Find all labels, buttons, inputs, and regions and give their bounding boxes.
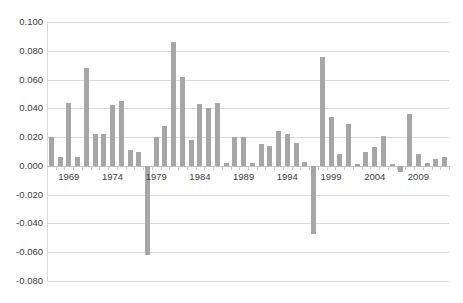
y-axis-tick-label: -0.020 [16,190,43,200]
bar [285,134,290,166]
x-axis-tick [449,166,450,170]
x-axis-tick [440,166,441,170]
x-axis-tick [82,166,83,170]
bar [110,105,115,165]
x-axis-tick [432,166,433,170]
x-axis-tick [117,166,118,170]
x-axis-tick [196,166,197,170]
x-axis-tick [388,166,389,170]
bar [101,134,106,166]
x-axis-tick-label: 1989 [233,171,254,182]
x-axis-tick [344,166,345,170]
bar [276,131,281,166]
bar [363,152,368,166]
bar [337,154,342,166]
x-axis-tick [134,166,135,170]
bar [58,157,63,166]
x-axis-tick-label: 1969 [58,171,79,182]
bar [49,137,54,166]
x-axis-tick [56,166,57,170]
bar [66,103,71,166]
bar [241,137,246,166]
x-axis-tick-label: 2004 [364,171,385,182]
x-axis-tick [423,166,424,170]
bar [189,140,194,166]
bar [162,126,167,166]
y-axis-tick-label: 0.060 [19,75,43,85]
x-axis-tick [231,166,232,170]
x-axis-tick-label: 2009 [408,171,429,182]
x-axis-tick [126,166,127,170]
x-axis-tick [108,166,109,170]
x-axis-labels: 196919741979198419891994199920042009 [47,171,449,185]
x-axis-tick [248,166,249,170]
x-axis-tick [283,166,284,170]
x-axis-tick [353,166,354,170]
x-axis-tick [309,166,310,170]
bar [416,154,421,166]
bar [93,134,98,166]
plot-area [47,22,449,281]
x-axis-tick [91,166,92,170]
x-axis-tick [152,166,153,170]
bar [128,150,133,166]
x-axis-tick [213,166,214,170]
x-axis-tick [239,166,240,170]
bar [171,42,176,166]
bar [294,143,299,166]
x-axis-tick [169,166,170,170]
x-axis-tick [274,166,275,170]
bar [206,108,211,166]
bar [136,152,141,166]
x-axis-tick [99,166,100,170]
x-axis-tick [161,166,162,170]
x-axis-tick [327,166,328,170]
y-axis-tick-label: 0.100 [19,17,43,27]
x-axis-tick-label: 1999 [320,171,341,182]
gridline [47,281,449,282]
bar [407,114,412,166]
x-axis-tick [335,166,336,170]
x-axis-tick [178,166,179,170]
x-axis-tick-label: 1974 [102,171,123,182]
x-axis-tick [204,166,205,170]
x-axis-tick [397,166,398,170]
bar [329,117,334,166]
bar-chart: 0.1000.0800.0600.0400.0200.000-0.020-0.0… [0,0,463,303]
x-axis-tick-label: 1984 [189,171,210,182]
x-axis-tick [414,166,415,170]
y-axis-tick-label: -0.080 [16,276,43,286]
x-axis-tick [379,166,380,170]
y-axis-tick-label: -0.040 [16,218,43,228]
bar [381,136,386,166]
x-axis-tick [64,166,65,170]
x-axis-tick [318,166,319,170]
x-axis-tick [257,166,258,170]
x-axis-tick-label: 1979 [146,171,167,182]
bar [119,101,124,166]
y-axis-labels: 0.1000.0800.0600.0400.0200.000-0.020-0.0… [0,22,43,281]
y-axis-tick-label: 0.000 [19,161,43,171]
x-axis-tick [222,166,223,170]
y-axis-tick-label: 0.040 [19,103,43,113]
y-axis-tick-label: -0.060 [16,247,43,257]
bar-series [47,22,449,281]
y-axis-tick-label: 0.020 [19,132,43,142]
x-axis-ticks [47,166,449,170]
bar [433,159,438,166]
bar [180,77,185,166]
x-axis-tick [265,166,266,170]
bar [267,146,272,166]
bar [442,157,447,166]
y-axis-tick-label: 0.080 [19,46,43,56]
bar [215,103,220,166]
bar [75,157,80,166]
x-axis-tick [362,166,363,170]
bar [346,124,351,166]
x-axis-tick [143,166,144,170]
bar [197,104,202,166]
bar [232,137,237,166]
x-axis-tick [187,166,188,170]
x-axis-tick [300,166,301,170]
x-axis-tick [370,166,371,170]
